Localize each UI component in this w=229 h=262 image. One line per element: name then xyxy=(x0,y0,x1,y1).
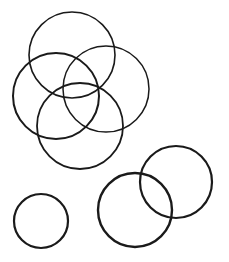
circle-bottom-right xyxy=(140,146,212,218)
circle-bottom-center xyxy=(37,83,123,169)
circle-right xyxy=(63,46,149,132)
circle-small-left xyxy=(14,194,68,248)
circle-bottom-middle xyxy=(98,173,172,247)
circles-canvas xyxy=(0,0,229,262)
